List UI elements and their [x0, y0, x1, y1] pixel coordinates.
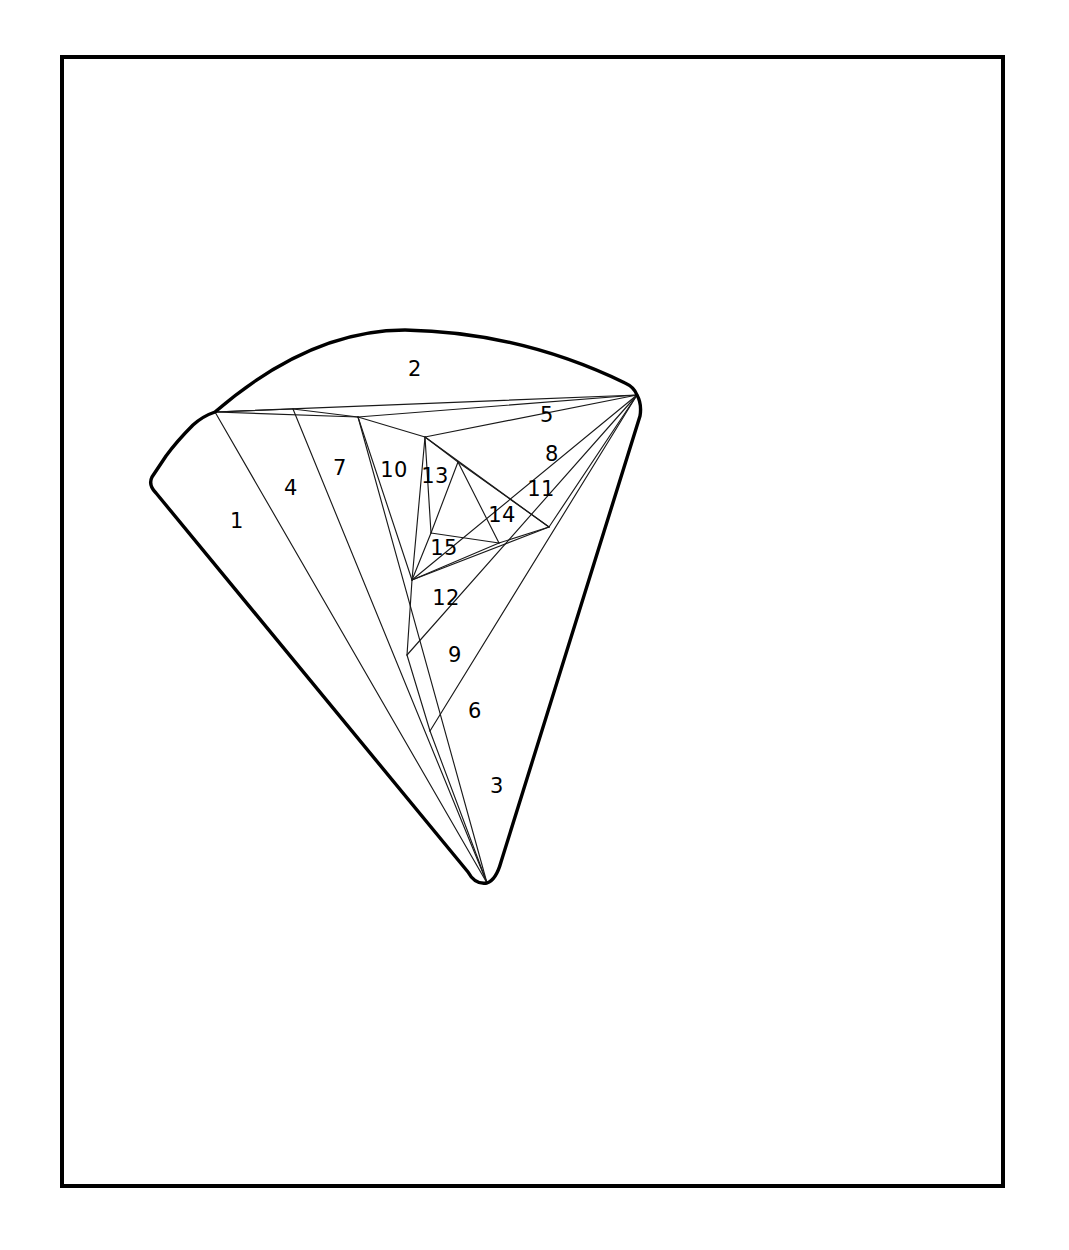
- region-label-3: 3: [490, 774, 504, 798]
- region-label-1: 1: [230, 509, 244, 533]
- region-label-5: 5: [540, 403, 554, 427]
- region-label-4: 4: [284, 476, 298, 500]
- region-label-11: 11: [527, 477, 555, 501]
- region-label-2: 2: [408, 357, 422, 381]
- region-label-12: 12: [432, 586, 460, 610]
- region-label-7: 7: [333, 456, 347, 480]
- region-label-6: 6: [468, 699, 482, 723]
- region-label-14: 14: [488, 503, 516, 527]
- region-label-15: 15: [430, 536, 458, 560]
- region-label-13: 13: [421, 464, 449, 488]
- region-label-10: 10: [380, 458, 408, 482]
- triangulation-diagram: 123456789101112131415: [0, 0, 1069, 1250]
- figure-root: 123456789101112131415: [0, 0, 1069, 1250]
- region-label-9: 9: [448, 643, 462, 667]
- region-label-8: 8: [545, 442, 559, 466]
